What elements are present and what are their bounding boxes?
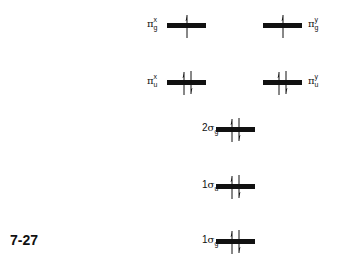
orbital-pi-u-y: πuy (258, 68, 328, 98)
spin-up-arrow-icon (279, 13, 287, 39)
figure-number: 7-27 (10, 232, 38, 248)
orbital-1-sigma-g: 1σg (190, 227, 260, 257)
orbital-label: πuy (308, 75, 318, 86)
orbital-2-sigma-g: 2σg (190, 115, 260, 145)
spin-down-arrow-icon (187, 70, 195, 96)
orbital-label: πux (147, 75, 157, 86)
orbital-1-sigma-u: 1σu (190, 172, 260, 202)
spin-down-arrow-icon (235, 229, 243, 255)
orbital-pi-u-x: πux (140, 68, 210, 98)
orbital-pi-g-y: πgy (258, 11, 328, 41)
spin-down-arrow-icon (235, 117, 243, 143)
orbital-label: πgy (308, 18, 318, 29)
orbital-label: πgx (147, 18, 157, 29)
spin-down-arrow-icon (235, 174, 243, 200)
spin-down-arrow-icon (282, 70, 290, 96)
spin-up-arrow-icon (183, 13, 191, 39)
orbital-pi-g-x: πgx (140, 11, 210, 41)
